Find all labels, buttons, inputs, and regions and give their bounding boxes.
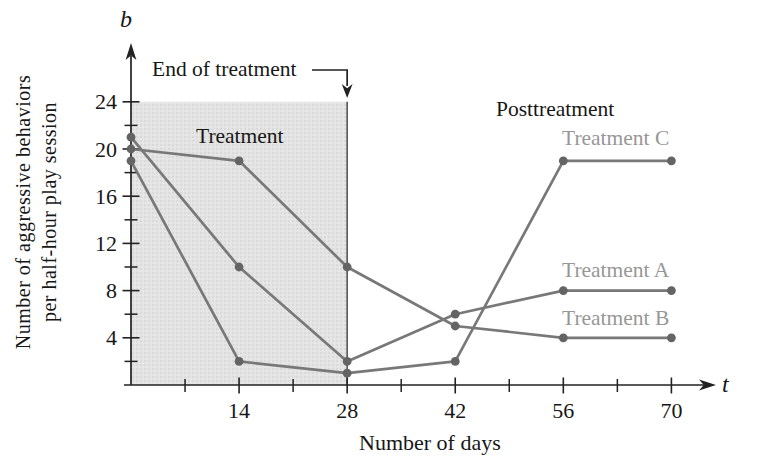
y-tick-label: 16 xyxy=(95,184,117,209)
x-tick-label: 42 xyxy=(444,398,466,423)
y-axis-variable: b xyxy=(120,6,132,33)
y-axis-title-line1: Number of aggressive behaviors xyxy=(10,32,36,392)
data-point xyxy=(667,286,676,295)
posttreatment-label: Posttreatment xyxy=(496,97,614,122)
end-of-treatment-arrow-icon xyxy=(342,84,353,98)
y-tick-label: 12 xyxy=(95,231,117,256)
data-point xyxy=(667,333,676,342)
data-point xyxy=(667,156,676,165)
x-tick-label: 56 xyxy=(552,398,574,423)
end-of-treatment-annotation: End of treatment xyxy=(152,57,296,82)
x-axis-title: Number of days xyxy=(359,430,501,456)
data-point xyxy=(235,263,244,272)
data-point xyxy=(235,156,244,165)
treatment-region-label: Treatment xyxy=(196,124,284,149)
chart-canvas: 48121620241428425670 xyxy=(0,0,757,470)
data-point xyxy=(451,310,460,319)
y-tick-label: 24 xyxy=(95,89,117,114)
data-point xyxy=(559,156,568,165)
data-point xyxy=(127,145,136,154)
x-tick-label: 70 xyxy=(660,398,682,423)
y-tick-label: 8 xyxy=(106,278,117,303)
data-point xyxy=(343,369,352,378)
series-label-treatment-b: Treatment B xyxy=(562,306,669,331)
data-point xyxy=(559,333,568,342)
data-point xyxy=(451,322,460,331)
series-label-treatment-a: Treatment A xyxy=(562,258,669,283)
series-label-treatment-c: Treatment C xyxy=(562,126,669,151)
x-tick-label: 14 xyxy=(228,398,250,423)
data-point xyxy=(127,156,136,165)
data-point xyxy=(451,357,460,366)
figure: 48121620241428425670 b t End of treatmen… xyxy=(0,0,757,470)
data-point xyxy=(559,286,568,295)
y-tick-label: 20 xyxy=(95,137,117,162)
y-tick-label: 4 xyxy=(106,325,117,350)
data-point xyxy=(235,357,244,366)
y-axis-title: Number of aggressive behaviors per half-… xyxy=(10,32,62,392)
data-point xyxy=(127,133,136,142)
x-tick-label: 28 xyxy=(336,398,358,423)
y-axis-title-line2: per half-hour play session xyxy=(36,32,62,392)
data-point xyxy=(343,357,352,366)
data-point xyxy=(343,263,352,272)
x-axis-variable: t xyxy=(722,371,729,398)
end-of-treatment-connector xyxy=(312,70,347,86)
